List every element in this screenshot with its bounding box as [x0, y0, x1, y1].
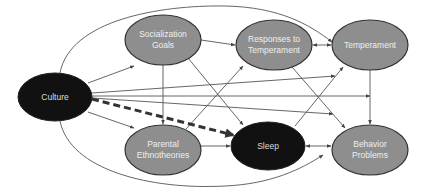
node-parental-ethnotheories: Parental Ethnotheories: [125, 125, 201, 175]
edge-socialization-responses: [201, 40, 235, 45]
node-label: Problems: [352, 150, 388, 160]
node-label: Responses to: [248, 34, 300, 44]
node-label: Parental: [147, 139, 179, 149]
node-label: Temperament: [344, 40, 397, 50]
node-responses-to-temperament: Responses to Temperament: [236, 20, 312, 70]
edge-culture-temperament: [92, 76, 335, 93]
node-socialization-goals: Socialization Goals: [125, 15, 201, 65]
node-label: Ethnotheories: [137, 150, 189, 160]
edge-parental-responses: [186, 66, 243, 129]
node-sleep: Sleep: [231, 122, 305, 170]
edge-socialization-sleep: [188, 58, 243, 125]
edge-culture-behavior: [92, 98, 333, 114]
edges: [60, 6, 370, 187]
edge-culture-parental: [88, 112, 134, 128]
node-label: Behavior: [353, 139, 387, 149]
node-label: Sleep: [257, 141, 279, 151]
node-label: Culture: [41, 92, 69, 102]
node-label: Temperament: [248, 45, 301, 55]
node-label: Socialization: [139, 29, 187, 39]
node-behavior-problems: Behavior Problems: [332, 125, 408, 175]
node-label: Goals: [152, 40, 174, 50]
node-culture: Culture: [18, 73, 92, 121]
culture-sleep-model-diagram: Culture Socialization Goals Responses to…: [0, 0, 429, 193]
edge-culture-socialization: [88, 66, 134, 83]
node-temperament: Temperament: [332, 20, 408, 70]
